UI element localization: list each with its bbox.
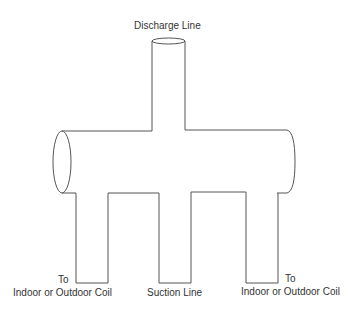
discharge-pipe: [152, 41, 185, 131]
left-coil-label: Indoor or Outdoor Coil: [13, 287, 112, 299]
discharge-line-label: Discharge Line: [134, 20, 201, 32]
valve-body-top: [62, 130, 287, 131]
reversing-valve-diagram: [0, 0, 361, 314]
right-coil-label: Indoor or Outdoor Coil: [241, 286, 340, 298]
valve-body-left-end: [53, 131, 71, 193]
discharge-pipe-opening: [152, 38, 185, 44]
right-to-label: To: [285, 273, 296, 285]
suction-pipe: [159, 192, 246, 283]
left-coil-pipe: [62, 193, 159, 283]
left-to-label: To: [58, 274, 69, 286]
right-coil-pipe: [246, 192, 278, 283]
suction-line-label: Suction Line: [147, 287, 202, 299]
valve-body-right-end: [277, 130, 295, 193]
